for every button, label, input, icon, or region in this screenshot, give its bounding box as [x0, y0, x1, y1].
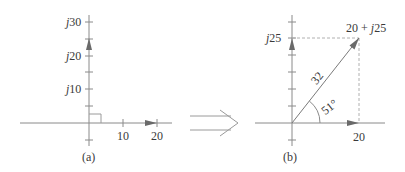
double-arrow-icon — [190, 110, 238, 136]
panel-a-axes — [20, 15, 172, 146]
panel-a-ytick-j10: j10 — [66, 83, 81, 95]
panel-a-real-arrow-icon — [145, 120, 157, 126]
panel-b-imag-arrow-icon — [289, 38, 295, 50]
panel-a-xtick-10: 10 — [117, 130, 129, 142]
panel-a-ytick-j20: j20 — [66, 50, 81, 62]
panel-b-real-arrow-icon — [347, 120, 359, 126]
panel-b-caption: (b) — [283, 151, 297, 163]
phasor-diagram — [0, 0, 405, 172]
angle-arc — [309, 101, 320, 123]
phasor-point-label: 20 + j25 — [346, 22, 386, 34]
panel-a-caption: (a) — [82, 151, 95, 163]
panel-a-ytick-j30: j30 — [66, 16, 81, 28]
panel-a-xtick-20: 20 — [151, 130, 163, 142]
panel-a-imag-arrow-icon — [86, 38, 92, 50]
panel-b-xtick-20: 20 — [353, 131, 365, 143]
panel-b-ytick-j25: j25 — [266, 32, 281, 44]
